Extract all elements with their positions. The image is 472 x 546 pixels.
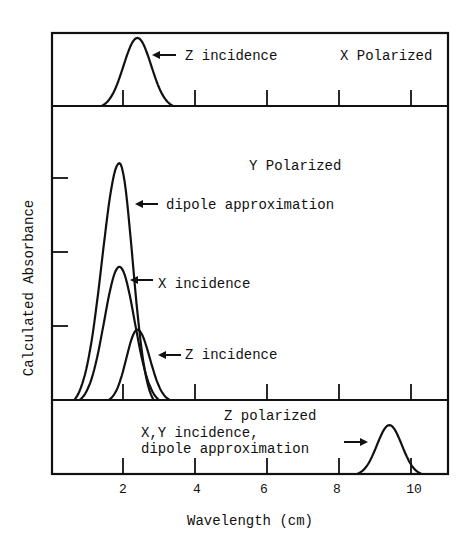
x-tick-label: 6 — [260, 482, 268, 497]
top-panel-labels: Z incidence X Polarized — [152, 48, 432, 64]
dipole-approximation-label: dipole approximation — [166, 197, 334, 213]
curve-x-y-incidence-dipole-approximation — [357, 425, 422, 474]
middle-panel-labels: Y Polarized dipole approximation X incid… — [130, 158, 341, 363]
arrowhead-icon — [158, 351, 166, 359]
x-tick-label: 8 — [333, 482, 341, 497]
middle-panel-title: Y Polarized — [249, 158, 341, 174]
bottom-panel-title: Z polarized — [224, 408, 316, 424]
top-panel-title: X Polarized — [340, 48, 432, 64]
arrowhead-icon — [152, 51, 160, 59]
bottom-label-line2: dipole approximation — [141, 441, 309, 457]
y-axis-ticks — [52, 178, 68, 326]
bottom-label-line1: X,Y incidence, — [141, 425, 259, 441]
top-curve-label: Z incidence — [185, 48, 277, 64]
x-incidence-label: X incidence — [158, 276, 250, 292]
z-incidence-label: Z incidence — [185, 347, 277, 363]
curve-z-incidence — [101, 38, 173, 106]
arrowhead-icon — [360, 438, 368, 446]
curve-dipole-approximation — [74, 163, 153, 400]
arrowhead-icon — [135, 200, 143, 208]
x-tick-label: 10 — [406, 482, 422, 497]
y-axis-label: Calculated Absorbance — [21, 200, 37, 376]
bottom-panel-labels: Z polarized X,Y incidence, dipole approx… — [141, 408, 368, 457]
absorbance-chart: Z incidence X Polarized Y Polarized dipo… — [0, 0, 472, 546]
x-axis-label: Wavelength (cm) — [187, 513, 313, 529]
x-tick-label: 2 — [119, 482, 127, 497]
x-tick-label: 4 — [193, 482, 201, 497]
x-tick-labels: 2 4 6 8 10 — [119, 482, 422, 497]
